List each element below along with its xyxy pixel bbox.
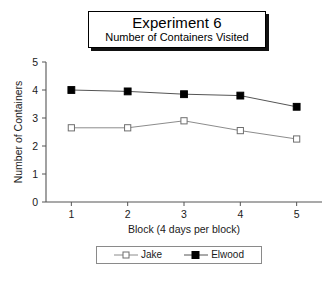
y-axis-tick-label: 4 (32, 84, 38, 96)
x-axis-tick-label: 3 (181, 208, 187, 220)
legend-item-jake: Jake (114, 249, 162, 260)
legend-swatch-open-square-icon (114, 250, 138, 260)
y-axis-tick-label: 0 (32, 196, 38, 208)
chart-title-main: Experiment 6 (93, 14, 261, 31)
data-point-jake (181, 118, 187, 124)
x-axis-tick-label: 1 (68, 208, 74, 220)
data-point-jake (237, 128, 243, 134)
x-axis-tick-label: 4 (237, 208, 243, 220)
chart-title-box: Experiment 6 Number of Containers Visite… (88, 11, 266, 48)
data-point-elwood (68, 87, 75, 94)
data-point-jake (125, 125, 131, 131)
legend-item-elwood: Elwood (184, 249, 244, 260)
chart-figure: Experiment 6 Number of Containers Visite… (0, 0, 336, 282)
data-point-jake (68, 125, 74, 131)
y-axis-tick-label: 5 (32, 56, 38, 68)
data-point-elwood (293, 103, 300, 110)
x-axis-tick-label: 5 (294, 208, 300, 220)
x-axis-title: Block (4 days per block) (128, 223, 240, 235)
legend-label-jake: Jake (141, 249, 162, 260)
data-point-elwood (181, 91, 188, 98)
y-axis-title: Number of Containers (12, 81, 24, 184)
y-axis-tick-label: 3 (32, 112, 38, 124)
y-axis-tick-label: 1 (32, 168, 38, 180)
chart-legend: Jake Elwood (96, 246, 262, 264)
legend-label-elwood: Elwood (211, 249, 244, 260)
x-axis-tick-label: 2 (125, 208, 131, 220)
chart-title-subtitle: Number of Containers Visited (93, 31, 261, 44)
legend-swatch-filled-square-icon (184, 250, 208, 260)
data-point-elwood (237, 92, 244, 99)
y-axis-tick-label: 2 (32, 140, 38, 152)
data-point-elwood (124, 88, 131, 95)
data-point-jake (294, 136, 300, 142)
